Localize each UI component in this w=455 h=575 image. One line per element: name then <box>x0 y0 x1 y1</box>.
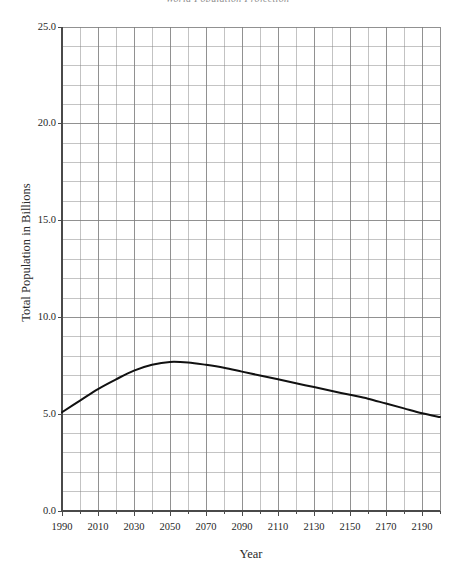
chart-figure: World Population Projection Total Popula… <box>0 0 455 575</box>
plot-area <box>0 0 455 575</box>
axis-spines <box>62 27 440 511</box>
data-line-total-population <box>62 362 440 417</box>
tick-marks <box>58 27 441 516</box>
x-tick-label: 2190 <box>400 521 444 532</box>
grid-lines <box>62 27 440 511</box>
x-axis-title: Year <box>62 547 440 562</box>
x-axis-tick-labels: 1990201020302050207020902110213021502170… <box>0 521 455 537</box>
